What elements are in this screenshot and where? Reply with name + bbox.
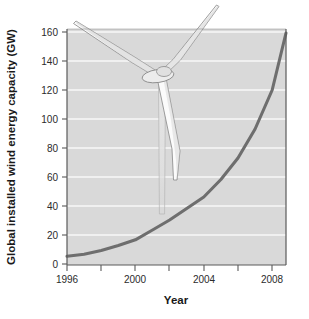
x-tick-label: 2004: [193, 274, 216, 285]
x-tick-label: 2000: [124, 274, 147, 285]
y-tick-label: 140: [41, 56, 58, 67]
y-tick-label: 100: [41, 114, 58, 125]
y-axis-title: Global installed wind energy capacity (G…: [5, 29, 17, 265]
x-tick-label: 1996: [56, 274, 79, 285]
y-tick-label: 60: [47, 172, 59, 183]
y-tick-label: 80: [47, 143, 59, 154]
y-tick-label: 20: [47, 230, 59, 241]
turbine-hub: [157, 67, 172, 77]
x-axis-title: Year: [164, 294, 189, 306]
wind-capacity-chart-figure: 160 140 120 100 80 60 40 20 0 1996 2000 …: [0, 0, 309, 319]
y-tick-label: 120: [41, 85, 58, 96]
y-tick-label: 160: [41, 27, 58, 38]
y-tick-label: 40: [47, 201, 59, 212]
y-tick-label: 0: [52, 259, 58, 270]
x-tick-label: 2008: [261, 274, 284, 285]
